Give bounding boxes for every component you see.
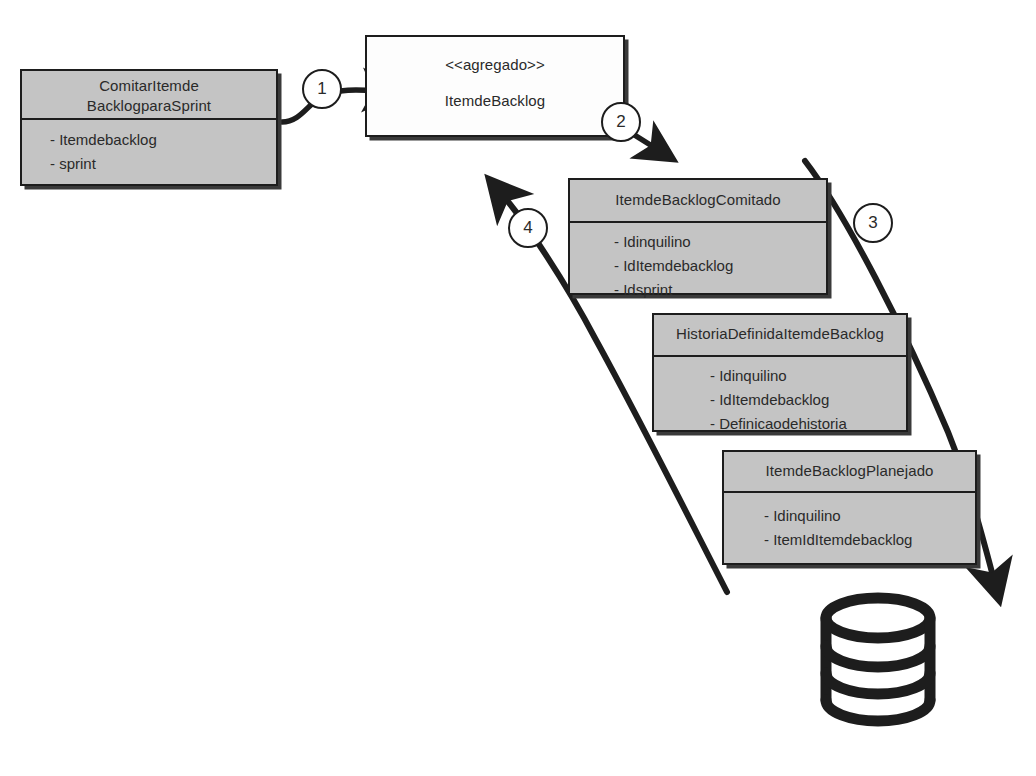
attribute-row: - Itemdebacklog xyxy=(50,128,266,152)
uml-box-item-de-backlog-planejado[interactable]: ItemdeBacklogPlanejado - Idinquilino - I… xyxy=(722,450,977,565)
diagram-canvas: ComitarItemde BacklogparaSprint - Itemde… xyxy=(0,0,1036,776)
step-badge-1[interactable]: 1 xyxy=(302,69,342,109)
box-attributes: - Idinquilino - IdItemdebacklog - Idspri… xyxy=(570,223,826,311)
box-title-line-1: ComitarItemde xyxy=(99,77,199,94)
uml-box-comitar-item-de-backlog-para-sprint[interactable]: ComitarItemde BacklogparaSprint - Itemde… xyxy=(20,69,278,186)
box-header: <<agregado>> ItemdeBacklog xyxy=(367,37,623,120)
box-attributes: - Itemdebacklog - sprint xyxy=(22,120,276,185)
box-header: HistoriaDefinidaItemdeBacklog xyxy=(654,315,906,357)
attribute-row: - IdItemdebacklog xyxy=(614,254,816,278)
box-title-line-1: HistoriaDefinidaItemdeBacklog xyxy=(676,325,884,342)
attribute-row: - Idinquilino xyxy=(764,504,965,528)
attribute-row: - ItemIdItemdebacklog xyxy=(764,528,965,552)
attribute-row: - Idinquilino xyxy=(710,364,896,388)
uml-box-historia-definida-item-de-backlog[interactable]: HistoriaDefinidaItemdeBacklog - Idinquil… xyxy=(652,313,908,432)
box-title-line-1: ItemdeBacklogComitado xyxy=(615,191,781,208)
box-attributes: - Idinquilino - ItemIdItemdebacklog xyxy=(724,493,975,561)
step-badge-2[interactable]: 2 xyxy=(601,102,641,142)
attribute-row: - Idinquilino xyxy=(614,230,816,254)
step-badge-4[interactable]: 4 xyxy=(508,208,548,248)
database-icon xyxy=(808,588,948,738)
box-title-line-1: ItemdeBacklog xyxy=(445,92,546,109)
box-stereotype: <<agregado>> xyxy=(373,55,617,75)
attribute-row: - IdItemdebacklog xyxy=(710,388,896,412)
attribute-row: - Definicaodehistoria xyxy=(710,412,896,436)
box-header: ItemdeBacklogPlanejado xyxy=(724,452,975,493)
uml-box-item-de-backlog-agregado[interactable]: <<agregado>> ItemdeBacklog xyxy=(365,35,625,137)
box-title-line-1: ItemdeBacklogPlanejado xyxy=(765,462,933,479)
uml-box-item-de-backlog-comitado[interactable]: ItemdeBacklogComitado - Idinquilino - Id… xyxy=(568,178,828,295)
box-title-line-2: BacklogparaSprint xyxy=(87,97,211,114)
attribute-row: - sprint xyxy=(50,152,266,176)
box-header: ComitarItemde BacklogparaSprint xyxy=(22,71,276,120)
step-badge-3[interactable]: 3 xyxy=(853,203,893,243)
attribute-row: - Idsprint xyxy=(614,278,816,302)
box-header: ItemdeBacklogComitado xyxy=(570,180,826,223)
box-attributes: - Idinquilino - IdItemdebacklog - Defini… xyxy=(654,357,906,445)
